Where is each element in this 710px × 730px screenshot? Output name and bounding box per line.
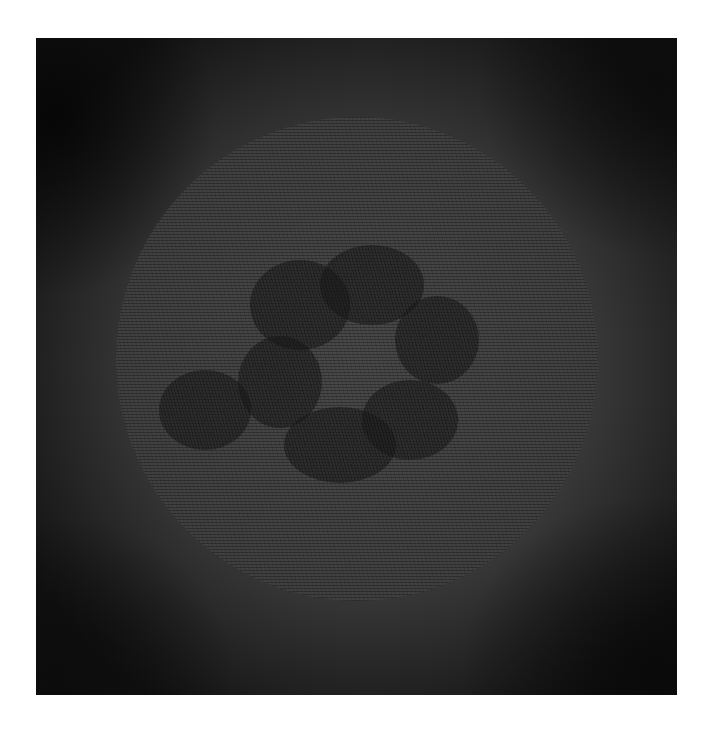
textured-disc <box>116 117 598 601</box>
blob-upper-left <box>250 260 350 350</box>
blob-right <box>395 296 479 384</box>
blob-bottom <box>284 407 396 483</box>
artwork-frame <box>36 38 677 695</box>
blob-far-left <box>159 370 251 450</box>
